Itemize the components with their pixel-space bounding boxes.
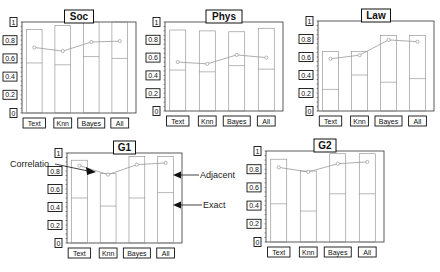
y-tick-label: 0.2 xyxy=(3,90,17,99)
svg-text:Soc: Soc xyxy=(70,11,89,22)
y-tick-label: 0.6 xyxy=(3,54,17,63)
svg-text:0: 0 xyxy=(57,240,61,247)
chart-title: Soc xyxy=(65,10,94,23)
y-tick-label: 0.6 xyxy=(247,183,261,192)
correlation-point xyxy=(164,161,167,164)
adjacent-bar xyxy=(330,154,346,242)
adjacent-bar xyxy=(158,157,174,243)
y-tick-label: 0 xyxy=(55,239,62,248)
bar-text xyxy=(71,160,87,243)
correlation-point xyxy=(307,170,310,173)
svg-text:0.2: 0.2 xyxy=(148,90,158,97)
svg-text:0.8: 0.8 xyxy=(249,166,259,173)
svg-text:Bayes: Bayes xyxy=(82,120,102,128)
y-tick-label: 0 xyxy=(306,107,313,116)
plot-area xyxy=(266,151,384,242)
svg-text:G1: G1 xyxy=(118,142,132,153)
adjacent-bar xyxy=(410,35,426,111)
y-tick-label: 1 xyxy=(153,18,160,27)
svg-text:0.2: 0.2 xyxy=(249,220,259,227)
svg-text:Knn: Knn xyxy=(302,249,315,256)
y-tick-label: 0.2 xyxy=(146,89,160,98)
chart-phys: 00.20.40.60.81TextKnnBayesAllPhys xyxy=(146,10,283,126)
svg-text:Bayes: Bayes xyxy=(379,118,399,126)
x-tick-label: Knn xyxy=(99,248,117,258)
svg-text:0.8: 0.8 xyxy=(5,37,15,44)
chart-title: G1 xyxy=(114,141,136,154)
bar-text xyxy=(26,29,42,113)
svg-text:Text: Text xyxy=(28,120,41,127)
correlation-point xyxy=(336,162,339,165)
x-tick-label: Text xyxy=(68,248,90,258)
y-tick-label: 0.8 xyxy=(3,36,17,45)
x-tick-label: Bayes xyxy=(123,248,150,258)
x-tick-label: Text xyxy=(268,247,290,257)
svg-text:0.2: 0.2 xyxy=(5,91,15,98)
y-tick-label: 0.4 xyxy=(299,71,313,80)
correlation-point xyxy=(387,38,390,41)
svg-text:1: 1 xyxy=(308,18,312,25)
y-tick-label: 0.2 xyxy=(247,219,261,228)
svg-text:0.2: 0.2 xyxy=(50,222,60,229)
adjacent-bar xyxy=(129,157,145,243)
y-tick-label: 0.8 xyxy=(146,35,160,44)
svg-text:All: All xyxy=(162,250,170,257)
adjacent-bar xyxy=(258,28,274,111)
x-tick-label: All xyxy=(111,118,129,128)
chart-law: 00.20.40.60.81TextKnnBayesAllLaw xyxy=(299,9,434,126)
correlation-point xyxy=(176,60,179,63)
annotations: CorrelatioAdjacentExact xyxy=(10,159,236,210)
svg-text:All: All xyxy=(363,249,371,256)
correlation-point xyxy=(265,56,268,59)
bar-knn xyxy=(55,26,71,113)
svg-text:All: All xyxy=(414,118,422,125)
adjacent-bar xyxy=(100,174,116,243)
chart-title: Phys xyxy=(206,10,242,23)
svg-text:0.4: 0.4 xyxy=(5,73,15,80)
y-tick-label: 0 xyxy=(153,107,160,116)
correlation-point xyxy=(107,173,110,176)
svg-text:0.6: 0.6 xyxy=(249,184,259,191)
svg-text:Bayes: Bayes xyxy=(127,250,147,258)
adjacent-bar xyxy=(112,22,128,113)
correlation-line xyxy=(331,40,418,59)
y-tick-label: 1 xyxy=(55,149,62,158)
x-tick-label: Bayes xyxy=(223,116,250,126)
correlation-point xyxy=(277,166,280,169)
svg-text:Knn: Knn xyxy=(201,118,214,125)
svg-text:0.2: 0.2 xyxy=(301,90,311,97)
x-tick-label: Bayes xyxy=(375,116,402,126)
plot-area xyxy=(22,22,136,113)
bar-bayes xyxy=(381,35,397,111)
y-tick-label: 0.6 xyxy=(299,53,313,62)
bar-bayes xyxy=(229,32,245,111)
correlation-point xyxy=(135,163,138,166)
svg-text:All: All xyxy=(116,120,124,127)
bar-all xyxy=(158,157,174,243)
svg-text:1: 1 xyxy=(57,150,61,157)
svg-text:Exact: Exact xyxy=(203,200,226,210)
correlation-line xyxy=(178,55,267,64)
y-tick-label: 1 xyxy=(10,18,17,27)
x-tick-label: All xyxy=(358,247,376,257)
svg-text:Text: Text xyxy=(73,250,86,257)
bar-all xyxy=(258,28,274,111)
x-tick-label: Knn xyxy=(54,118,72,128)
svg-text:0.6: 0.6 xyxy=(50,186,60,193)
y-tick-label: 0.2 xyxy=(48,221,62,230)
x-tick-label: Bayes xyxy=(78,118,105,128)
correlation-point xyxy=(416,40,419,43)
correlation-point xyxy=(206,62,209,65)
y-tick-label: 0 xyxy=(254,238,261,247)
svg-text:Knn: Knn xyxy=(353,118,366,125)
adjacent-bar xyxy=(271,159,287,242)
adjacent-bar xyxy=(71,160,87,243)
correlation-point xyxy=(358,54,361,57)
y-tick-label: 1 xyxy=(306,17,313,26)
x-tick-label: Knn xyxy=(299,247,317,257)
svg-text:0.6: 0.6 xyxy=(301,54,311,61)
bar-knn xyxy=(199,31,215,111)
svg-text:Text: Text xyxy=(324,118,337,125)
svg-text:0.4: 0.4 xyxy=(148,72,158,79)
svg-text:0.8: 0.8 xyxy=(301,36,311,43)
